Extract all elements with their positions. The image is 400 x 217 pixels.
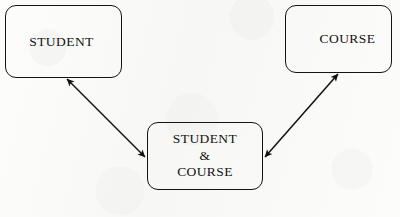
- entity-course-label: COURSE: [320, 31, 376, 47]
- diagram-canvas: STUDENT COURSE STUDENT & COURSE: [0, 0, 400, 217]
- entity-student-course[interactable]: STUDENT & COURSE: [147, 122, 263, 190]
- entity-student-label: STUDENT: [29, 34, 94, 50]
- connector-course-to-student-course: [265, 74, 338, 157]
- entity-student[interactable]: STUDENT: [5, 5, 122, 78]
- connector-student-to-student-course: [67, 79, 145, 157]
- entity-student-course-label: STUDENT & COURSE: [173, 131, 237, 181]
- entity-course[interactable]: COURSE: [285, 5, 392, 73]
